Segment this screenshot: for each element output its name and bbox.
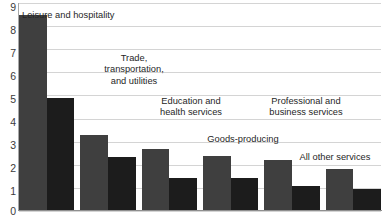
category-label-leisure-and-hospitality: Leisure and hospitality [22,10,152,21]
y-tick-3: 3 [2,140,16,151]
gridline-7 [19,49,381,50]
bar-0-series-a [19,15,47,211]
x-axis-line [18,210,382,211]
y-tick-4: 4 [2,117,16,128]
bar-1-series-a [80,135,108,211]
bar-2-series-b [169,178,197,212]
bar-0-series-b [47,98,75,211]
bar-5-series-a [326,169,354,211]
bar-chart: 9 8 7 6 5 4 3 2 1 0 Leisure and hospital… [0,0,383,224]
y-axis: 9 8 7 6 5 4 3 2 1 0 [0,0,16,224]
y-tick-2: 2 [2,163,16,174]
y-tick-1: 1 [2,186,16,197]
y-tick-9: 9 [2,2,16,13]
category-label-trade-transportation-and-utilities: Trade, transportation, and utilities [72,53,196,87]
y-tick-7: 7 [2,48,16,59]
y-tick-6: 6 [2,71,16,82]
y-tick-5: 5 [2,94,16,105]
y-tick-8: 8 [2,25,16,36]
bar-3-series-a [203,156,231,211]
y-tick-0: 0 [2,206,16,217]
gridline-9 [19,3,381,4]
bar-1-series-b [108,157,136,211]
category-label-professional-and-business-services: Professional and business services [245,96,367,119]
category-label-education-and-health-services: Education and health services [134,96,248,119]
category-label-all-other-services: All other services [288,152,382,163]
bar-3-series-b [231,178,259,212]
bar-5-series-b [353,189,381,211]
bar-4-series-a [264,160,292,211]
gridline-8 [19,26,381,27]
bar-2-series-a [142,149,170,211]
bar-4-series-b [292,186,320,211]
category-label-goods-producing: Goods-producing [178,134,308,145]
